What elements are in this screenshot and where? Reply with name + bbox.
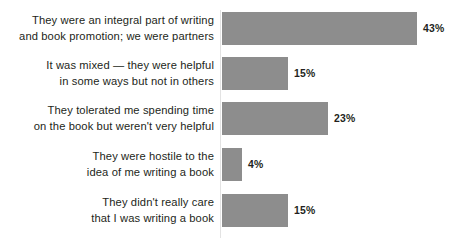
bar-fill — [222, 12, 417, 45]
bar-fill — [222, 148, 242, 181]
bar-track: 4% — [222, 148, 263, 181]
bar-fill — [222, 194, 288, 227]
bar-category-label: They didn't really care that I was writi… — [18, 195, 214, 225]
bar-value-label: 15% — [294, 68, 315, 79]
horizontal-bar-chart: They were an integral part of writing an… — [0, 0, 460, 244]
bar-value-label: 43% — [423, 23, 444, 34]
bar-track: 23% — [222, 102, 355, 135]
bar-row: It was mixed — they were helpful in some… — [0, 57, 460, 90]
bar-value-label: 4% — [248, 159, 263, 170]
bar-value-label: 15% — [294, 205, 315, 216]
bar-track: 15% — [222, 194, 315, 227]
bar-row: They were hostile to the idea of me writ… — [0, 148, 460, 181]
bar-category-label: They were an integral part of writing an… — [18, 13, 214, 43]
bar-row: They were an integral part of writing an… — [0, 12, 460, 45]
bar-value-label: 23% — [334, 113, 355, 124]
bar-row: They tolerated me spending time on the b… — [0, 102, 460, 135]
bar-category-label: They were hostile to the idea of me writ… — [18, 149, 214, 179]
bar-row: They didn't really care that I was writi… — [0, 194, 460, 227]
bar-fill — [222, 102, 328, 135]
bar-category-label: They tolerated me spending time on the b… — [18, 103, 214, 133]
bar-category-label: It was mixed — they were helpful in some… — [18, 58, 214, 88]
bar-track: 43% — [222, 12, 444, 45]
bar-track: 15% — [222, 57, 315, 90]
bar-fill — [222, 57, 288, 90]
